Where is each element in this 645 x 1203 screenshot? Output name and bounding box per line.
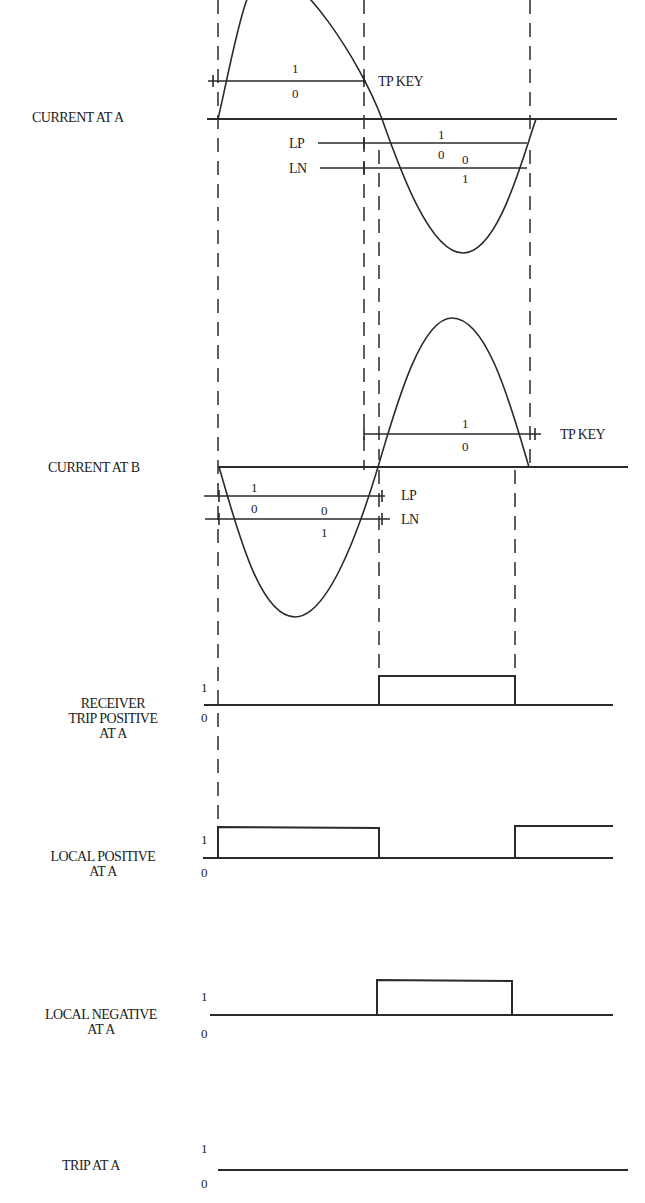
tp-key-b-low: 0 [462,440,469,453]
receiver-trip-positive-trace [204,676,613,705]
receiver-trip-positive-label: RECEIVER TRIP POSITIVE AT A [42,696,184,741]
lp-a-label: LP [289,136,304,151]
lneg-high-tick: 1 [201,990,208,1003]
trip-at-a-label: TRIP AT A [62,1158,120,1173]
current-b-waveform [204,318,628,617]
tp-key-b-high: 1 [462,417,469,430]
ln-a-label: LN [289,161,307,176]
current-b-label: CURRENT AT B [48,460,140,475]
rx-high-tick: 1 [201,681,208,694]
local-positive-trace [203,826,613,858]
ln-b-low: 1 [321,526,328,539]
local-negative-label: LOCAL NEGATIVE AT A [14,1007,188,1037]
current-a-waveform [207,0,617,253]
lp-b-high: 1 [251,481,258,494]
tp-key-a-low: 0 [292,87,299,100]
local-positive-label: LOCAL POSITIVE AT A [18,849,188,879]
ln-b-high: 0 [321,504,328,517]
tp-key-a-high: 1 [292,62,299,75]
ln-b-label: LN [401,512,419,527]
trip-high-tick: 1 [201,1142,208,1155]
lpos-low-tick: 0 [201,866,208,879]
tp-key-b-label: TP KEY [560,427,605,442]
lp-a-high: 1 [438,128,445,141]
lpos-high-tick: 1 [201,833,208,846]
lp-a-low: 0 [438,148,445,161]
rx-low-tick: 0 [201,711,208,724]
local-negative-trace [210,980,613,1015]
lp-b-label: LP [401,488,416,503]
trip-low-tick: 0 [201,1177,208,1190]
ln-a-high: 0 [462,153,469,166]
current-a-label: CURRENT AT A [32,110,124,125]
ln-a-low: 1 [462,172,469,185]
lneg-low-tick: 0 [201,1027,208,1040]
lp-b-low: 0 [251,502,258,515]
tp-key-a-label: TP KEY [378,74,423,89]
